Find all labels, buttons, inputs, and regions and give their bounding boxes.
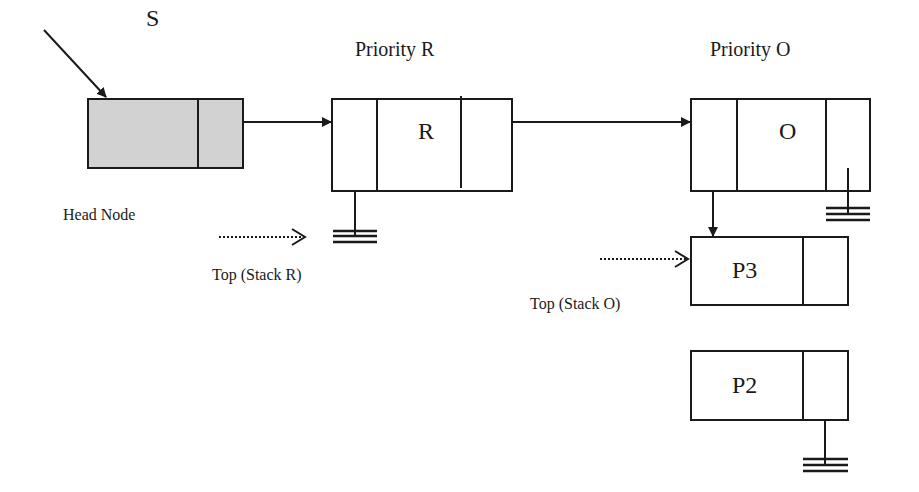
start-pointer-arrow [44,30,106,97]
head-node-label: Head Node [63,206,135,223]
p2-null-ground-icon [803,420,848,471]
top-stack-r-pointer [219,229,305,245]
p2-node-label: P2 [732,372,757,398]
p2-node [691,351,848,420]
start-pointer-label: S [146,5,159,31]
priority-o-node-label: O [779,118,796,144]
p3-node-label: P3 [732,257,757,283]
priority-r-label: Priority R [355,38,435,61]
top-stack-o-pointer [600,251,688,267]
priority-o-label: Priority O [710,38,791,61]
r-null-ground-icon [333,191,377,242]
priority-o-node [691,99,870,191]
top-stack-r-label: Top (Stack R) [212,266,302,284]
p3-node [691,237,848,305]
top-stack-o-label: Top (Stack O) [530,295,620,313]
diagram-canvas: S Head Node Priority R R Top (Stack R) P… [0,0,919,492]
priority-r-node-label: R [418,118,434,144]
head-node [88,99,243,168]
